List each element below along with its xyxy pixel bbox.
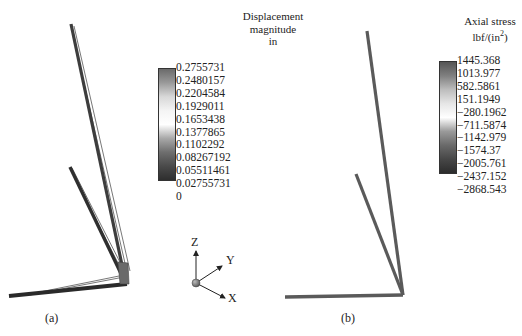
stress-colorbar-ticks: 1445.368 1013.977 582.5861 151.1949 −280… [457, 54, 507, 196]
member-long-diagonal [367, 31, 403, 295]
stressed-members [285, 31, 403, 297]
tick-label: −711.5874 [457, 119, 507, 132]
legend-title-line: Axial stress [458, 15, 522, 28]
tick-label: 151.1949 [457, 93, 507, 106]
tick-label: −1142.979 [457, 131, 507, 144]
tick-label: −280.1962 [457, 106, 507, 119]
tick-label: −2437.152 [457, 170, 507, 183]
tick-label: −1574.37 [457, 144, 507, 157]
panel-b-caption: (b) [341, 311, 355, 326]
legend-unit: lbf/(in2) [458, 28, 522, 43]
tick-label: −2868.543 [457, 183, 507, 196]
unit-close: ) [504, 30, 508, 42]
stress-colorbar [439, 61, 457, 174]
member-horizontal [285, 295, 403, 297]
tick-label: 1013.977 [457, 67, 507, 80]
tick-label: 582.5861 [457, 80, 507, 93]
tick-label: −2005.761 [457, 157, 507, 170]
unit-base: lbf/(in [472, 30, 500, 42]
stress-legend-title: Axial stress lbf/(in2) [458, 15, 522, 43]
tick-label: 1445.368 [457, 54, 507, 67]
